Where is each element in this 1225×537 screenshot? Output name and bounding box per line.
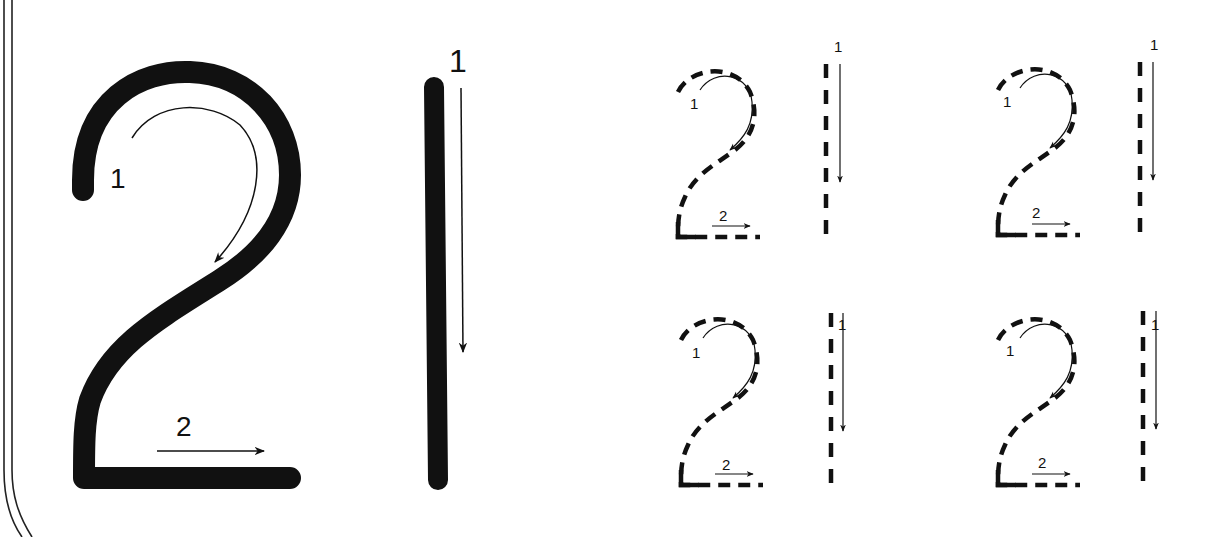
worksheet-canvas: 1 2 1 1 2 1 1 2 1 1 2 (0, 0, 1225, 537)
stroke-label: 2 (1032, 204, 1040, 221)
stroke-label: 2 (176, 411, 192, 442)
practice-cell: 1 2 1 (998, 36, 1158, 242)
stroke-arrow-icon (461, 88, 463, 352)
practice-cell: 1 2 1 (678, 38, 842, 244)
stroke-label: 2 (719, 207, 727, 224)
tracing-worksheet: 1 2 1 1 2 1 1 2 1 1 2 (0, 0, 1225, 537)
stroke-label: 1 (1006, 342, 1014, 359)
stroke-label: 1 (834, 38, 842, 55)
curved-stroke-arrow-icon (132, 108, 257, 262)
stroke-label: 1 (1003, 93, 1011, 110)
stroke-label: 1 (449, 43, 467, 79)
stroke-label: 1 (1150, 36, 1158, 53)
practice-cell: 1 2 1 (681, 313, 846, 493)
stroke-label: 1 (1151, 316, 1159, 333)
stroke-label: 1 (838, 316, 846, 333)
page-border (4, 0, 32, 537)
stroke-label: 1 (110, 163, 126, 194)
stroke-label: 2 (1038, 454, 1046, 471)
practice-cell: 1 2 1 (998, 311, 1159, 491)
model-digit-one (434, 87, 438, 480)
stroke-label: 2 (722, 456, 730, 473)
stroke-label: 1 (690, 95, 698, 112)
stroke-label: 1 (692, 344, 700, 361)
